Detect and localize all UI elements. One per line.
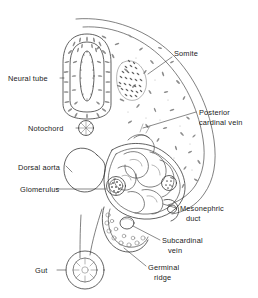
- leader-germinal-ridge: [124, 248, 146, 266]
- glomerulus-secondary: [162, 176, 177, 191]
- label-germinal-ridge-line1: Germinal: [148, 263, 179, 272]
- subcardinal-vein: [120, 217, 134, 229]
- somite: [117, 60, 147, 101]
- mesonephric-duct: [164, 199, 179, 221]
- label-gut: Gut: [35, 266, 47, 275]
- label-neural-tube: Neural tube: [8, 74, 48, 83]
- embryo-diagram-figure: Neural tube Somite Notochord Posterior c…: [0, 0, 258, 298]
- label-mesonephric-duct-line1: Mesonephric: [180, 204, 224, 213]
- label-glomerulus: Glomerulus: [20, 185, 59, 194]
- label-somite: Somite: [174, 49, 198, 58]
- label-posterior-cardinal-vein-line2: cardinal vein: [199, 118, 242, 127]
- diagram-canvas: Neural tube Somite Notochord Posterior c…: [0, 0, 258, 298]
- label-subcardinal-vein-line2: vein: [168, 246, 182, 255]
- body-wall-outline: [76, 19, 215, 214]
- leader-posterior-cardinal-vein: [143, 112, 196, 128]
- mesentery: [80, 209, 102, 258]
- label-notochord: Notochord: [28, 124, 63, 133]
- label-dorsal-aorta: Dorsal aorta: [18, 163, 61, 172]
- label-germinal-ridge-line2: ridge: [154, 273, 171, 282]
- neural-tube: [63, 34, 111, 119]
- leader-subcardinal-vein: [133, 226, 160, 240]
- label-subcardinal-vein-line1: Subcardinal: [162, 236, 203, 245]
- notochord: [79, 121, 94, 136]
- gut: [66, 251, 104, 289]
- leader-somite: [148, 57, 172, 74]
- label-posterior-cardinal-vein-line1: Posterior: [199, 108, 230, 117]
- label-mesonephric-duct-line2: duct: [186, 214, 201, 223]
- leader-dorsal-aorta: [66, 166, 72, 172]
